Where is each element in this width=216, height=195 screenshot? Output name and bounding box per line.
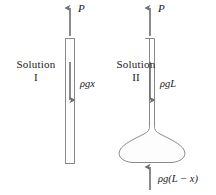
solution-1-caption-line-2: I: [8, 71, 64, 84]
figure-vector-layer: [0, 0, 216, 195]
solution-2-caption: Solution II: [108, 58, 164, 84]
solution-2-force-down-label: ρgL: [160, 78, 176, 89]
solution-1-force-down-label: ρgx: [80, 78, 95, 89]
solution-1-caption: Solution I: [8, 58, 64, 84]
solution-1-caption-line-1: Solution: [17, 58, 56, 70]
solution-2-caption-line-1: Solution: [117, 58, 156, 70]
solution-2-caption-line-2: II: [108, 71, 164, 84]
solution-1-force-up-label: P: [78, 2, 85, 14]
solution-2-force-up-bottom-label: ρg(L − x): [158, 173, 198, 184]
solution-2-force-up-top-label: P: [158, 2, 165, 14]
physics-figure: Solution I Solution II P ρgx P ρgL ρg(L …: [0, 0, 216, 195]
solution-1-vessel: [66, 39, 75, 164]
